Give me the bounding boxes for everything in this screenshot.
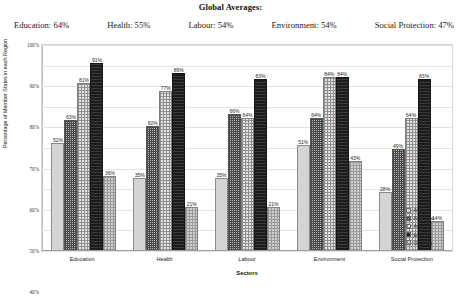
bar-value-label: 49% (393, 143, 403, 149)
bar-environment-asia[interactable]: 84% (323, 77, 336, 250)
legend-label: Africa (414, 207, 427, 213)
bar-education-americas[interactable]: 63% (64, 120, 77, 250)
bar-health-oceania[interactable]: 21% (185, 207, 198, 250)
legend-label: Americas (414, 215, 435, 221)
bar-value-label: 64% (406, 112, 416, 118)
bar-health-europe[interactable]: 86% (172, 73, 185, 250)
bar-value-label: 43% (350, 155, 360, 161)
global-averages-row: Education: 64% Health: 55% Labour: 54% E… (14, 20, 454, 30)
bar-value-label: 21% (268, 201, 278, 207)
bar-value-label: 91% (92, 57, 102, 63)
bar-education-europe[interactable]: 91% (90, 63, 103, 250)
bar-environment-europe[interactable]: 84% (336, 77, 349, 250)
bar-environment-oceania[interactable]: 43% (349, 161, 362, 250)
bar-labour-americas[interactable]: 66% (228, 114, 241, 250)
bar-social-protection-americas[interactable]: 49% (392, 149, 405, 250)
bar-value-label: 60% (148, 120, 158, 126)
y-axis-title: Percentage of Member States in each Regi… (2, 39, 8, 148)
bar-value-label: 52% (53, 137, 63, 143)
bar-value-label: 84% (324, 71, 334, 77)
legend-label: Europe (414, 232, 430, 238)
x-axis-tick-labels: EducationHealthLabourEnvironmentSocial P… (41, 256, 453, 262)
y-tick-label-50: 50% (29, 248, 39, 254)
bar-value-label: 77% (161, 85, 171, 91)
bar-environment-americas[interactable]: 64% (310, 118, 323, 250)
bar-social-protection-africa[interactable]: 28% (379, 192, 392, 250)
global-average-social-protection: Social Protection: 47% (375, 20, 454, 30)
legend-item-oceania[interactable]: Oceania (406, 240, 459, 246)
global-average-labour: Labour: 54% (188, 20, 233, 30)
legend-item-africa[interactable]: Africa (406, 207, 459, 213)
y-tick-label-70: 70% (29, 166, 39, 172)
bar-value-label: 64% (242, 112, 252, 118)
bar-labour-asia[interactable]: 64% (241, 118, 254, 250)
x-axis-title: Sectors (41, 270, 453, 276)
x-tick-label-health: Health (123, 256, 205, 262)
y-tick-label-80: 80% (29, 124, 39, 130)
global-average-education: Education: 64% (14, 20, 69, 30)
bar-value-label: 51% (298, 139, 308, 145)
legend-swatch-europe-icon (406, 232, 411, 237)
legend-swatch-oceania-icon (406, 240, 411, 245)
global-average-health: Health: 55% (107, 20, 150, 30)
page-title: Global Averages: (0, 2, 461, 12)
bar-value-label: 83% (419, 73, 429, 79)
bar-value-label: 66% (229, 108, 239, 114)
legend-swatch-asia-icon (406, 224, 411, 229)
bar-value-label: 63% (66, 114, 76, 120)
bar-labour-oceania[interactable]: 21% (267, 207, 280, 250)
legend-label: Asia (414, 223, 424, 229)
global-average-environment: Environment: 54% (272, 20, 337, 30)
bar-value-label: 83% (255, 73, 265, 79)
y-tick-label-100: 100% (27, 42, 39, 48)
bar-education-africa[interactable]: 52% (51, 143, 64, 250)
bar-labour-africa[interactable]: 35% (215, 178, 228, 250)
x-tick-label-social-protection: Social Protection (371, 256, 453, 262)
legend-item-europe[interactable]: Europe (406, 232, 459, 238)
x-tick-label-labour: Labour (206, 256, 288, 262)
bar-value-label: 81% (79, 77, 89, 83)
bar-education-asia[interactable]: 81% (77, 83, 90, 250)
chart-page: Global Averages: Education: 64% Health: … (0, 0, 461, 297)
bar-group-health: 35%60%77%86%21% (125, 45, 207, 250)
gridline-0: 0% (42, 251, 452, 252)
bar-group-environment: 51%64%84%84%43% (288, 45, 370, 250)
bar-value-label: 64% (311, 112, 321, 118)
bar-health-americas[interactable]: 60% (146, 126, 159, 250)
bar-health-africa[interactable]: 35% (133, 178, 146, 250)
bar-value-label: 28% (380, 186, 390, 192)
x-tick-label-education: Education (41, 256, 123, 262)
y-tick-label-90: 90% (29, 83, 39, 89)
legend-item-asia[interactable]: Asia (406, 223, 459, 229)
bar-value-label: 35% (216, 172, 226, 178)
bar-value-label: 21% (187, 201, 197, 207)
bar-group-labour: 35%66%64%83%21% (207, 45, 289, 250)
legend-label: Oceania (414, 240, 433, 246)
legend-item-americas[interactable]: Americas (406, 215, 459, 221)
y-tick-label-40: 40% (29, 289, 39, 295)
legend-swatch-americas-icon (406, 216, 411, 221)
plot-area: 100%90%80%70%60%50%40%30%20%10%0% 52%63%… (41, 44, 453, 252)
bar-labour-europe[interactable]: 83% (254, 79, 267, 250)
bar-value-label: 84% (337, 71, 347, 77)
bar-value-label: 36% (105, 170, 115, 176)
y-tick-label-60: 60% (29, 207, 39, 213)
bar-value-label: 35% (135, 172, 145, 178)
x-tick-label-environment: Environment (288, 256, 370, 262)
bar-health-asia[interactable]: 77% (159, 91, 172, 250)
bar-environment-africa[interactable]: 51% (297, 145, 310, 250)
bar-value-label: 86% (174, 67, 184, 73)
legend-swatch-africa-icon (406, 208, 411, 213)
chart-legend: AfricaAmericasAsiaEuropeOceania (406, 207, 459, 246)
bar-groups: 52%63%81%91%36%35%60%77%86%21%35%66%64%8… (43, 45, 452, 250)
bar-education-oceania[interactable]: 36% (103, 176, 116, 250)
bar-group-education: 52%63%81%91%36% (43, 45, 125, 250)
